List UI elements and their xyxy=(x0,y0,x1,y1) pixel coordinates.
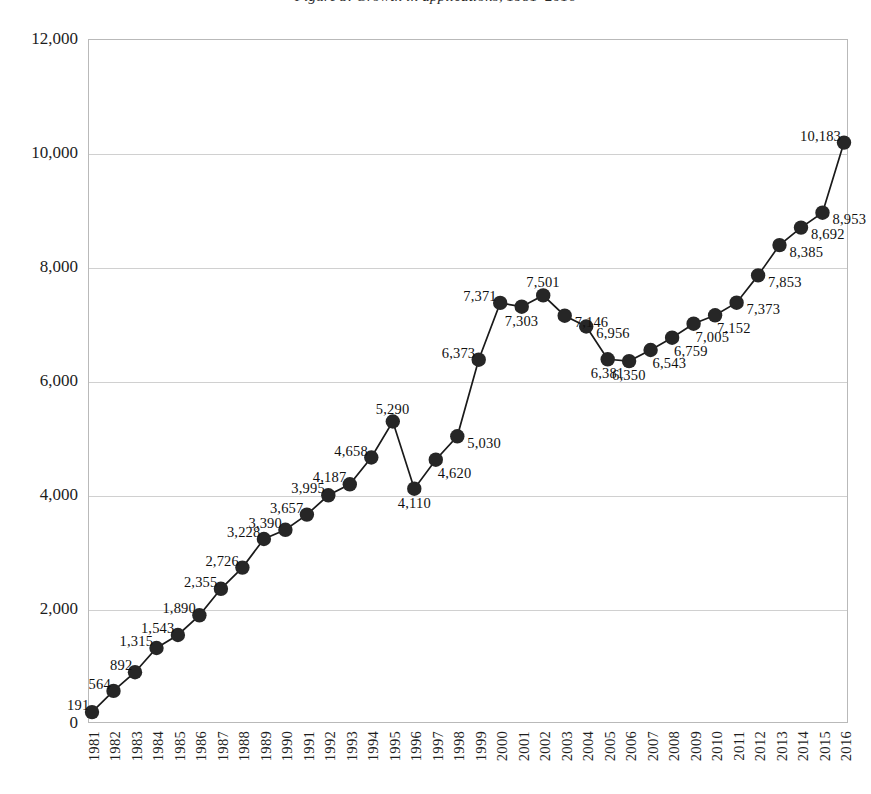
data-point-label: 4,110 xyxy=(398,495,431,512)
data-point-label: 892 xyxy=(110,657,132,674)
data-point-label: 10,183 xyxy=(800,128,841,145)
data-point-label: 191 xyxy=(67,697,89,714)
series-line xyxy=(92,143,844,713)
data-point-label: 2,355 xyxy=(184,574,218,591)
data-point-marker xyxy=(794,220,808,234)
data-point-marker xyxy=(751,268,765,282)
data-point-label: 4,620 xyxy=(438,465,472,482)
data-point-label: 7,853 xyxy=(768,274,802,291)
data-point-label: 8,692 xyxy=(811,226,845,243)
series-markers xyxy=(85,135,851,719)
data-point-label: 8,953 xyxy=(833,211,867,228)
data-point-label: 3,657 xyxy=(270,500,304,517)
data-point-label: 7,303 xyxy=(505,313,539,330)
data-point-label: 564 xyxy=(89,676,111,693)
data-point-marker xyxy=(558,309,572,323)
data-point-label: 5,290 xyxy=(376,401,410,418)
data-point-label: 2,726 xyxy=(205,553,239,570)
data-point-label: 7,373 xyxy=(747,301,781,318)
chart-container: Figure 3. Growth in applications, 1981–2… xyxy=(0,0,871,794)
data-point-label: 3,390 xyxy=(248,515,282,532)
data-point-label: 7,152 xyxy=(717,320,751,337)
data-point-label: 6,956 xyxy=(596,325,630,342)
data-point-marker xyxy=(815,206,829,220)
data-point-label: 4,187 xyxy=(313,469,347,486)
data-point-label: 4,658 xyxy=(334,443,368,460)
data-point-label: 6,350 xyxy=(612,367,646,384)
data-point-marker xyxy=(729,296,743,310)
series-svg xyxy=(0,0,871,794)
data-point-label: 7,501 xyxy=(526,274,560,291)
data-point-label: 8,385 xyxy=(790,244,824,261)
data-point-label: 7,371 xyxy=(463,288,497,305)
data-point-label: 1,890 xyxy=(162,600,196,617)
data-point-marker xyxy=(772,238,786,252)
data-point-label: 5,030 xyxy=(467,435,501,452)
data-point-label: 6,373 xyxy=(442,345,476,362)
data-point-label: 1,543 xyxy=(141,620,175,637)
data-point-marker xyxy=(450,429,464,443)
